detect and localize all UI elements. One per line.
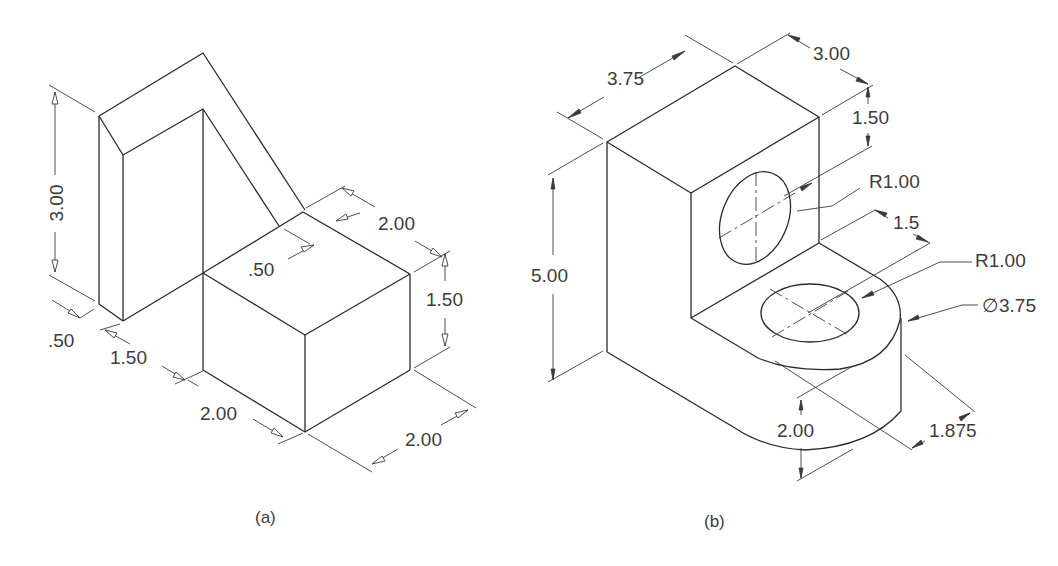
figure-b-dimensions [548,33,978,481]
caption-a: (a) [255,508,276,527]
dim-a-block-depth: 2.00 [405,429,442,450]
figure-b-centerlines [719,172,850,337]
dim-b-depth: 3.00 [813,43,850,64]
dim-a-top-depth: 2.00 [378,213,415,234]
dim-a-top-offset: .50 [248,259,274,280]
dim-a-offset-depth: 1.50 [110,347,147,368]
dim-b-base-height: 2.00 [777,420,814,441]
dim-b-boss-offset: 1.875 [929,420,977,441]
dim-b-height: 5.00 [531,265,568,286]
dim-b-upper-hole-radius: R1.00 [869,171,920,192]
caption-b: (b) [704,512,725,531]
dim-b-hole-offset: 1.50 [852,107,889,128]
dim-a-height-total: 3.00 [46,185,67,222]
technical-drawing: 3.00 .50 1.50 2.00 .50 2.00 1.50 2.00 (a… [0,0,1058,566]
figure-a-object [99,53,410,432]
dim-b-width: 3.75 [607,68,644,89]
dim-a-block-width: 2.00 [200,403,237,424]
dim-a-thickness-left: .50 [48,330,74,351]
dim-b-base-offset: 1.5 [893,212,919,233]
dim-b-lower-hole-radius: R1.00 [975,250,1026,271]
dim-b-boss-diameter: ∅3.75 [982,295,1036,316]
dim-a-block-height: 1.50 [426,289,463,310]
